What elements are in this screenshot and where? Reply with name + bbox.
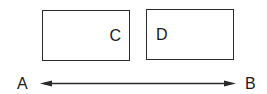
arrowhead-left-icon <box>40 81 52 87</box>
diagram-canvas: C D A B <box>0 0 267 94</box>
double-headed-arrow <box>0 0 267 94</box>
arrowhead-right-icon <box>224 81 236 87</box>
point-b-label: B <box>245 76 256 92</box>
